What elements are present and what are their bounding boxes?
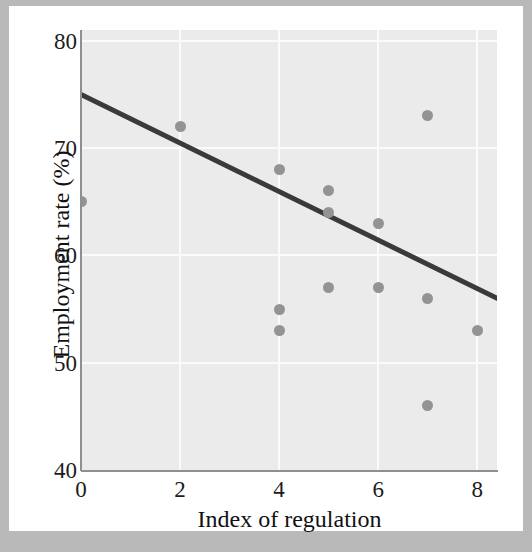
data-point xyxy=(472,325,483,336)
x-tick-label: 6 xyxy=(358,478,398,501)
trend-line-svg xyxy=(81,30,497,470)
plot-area xyxy=(81,30,497,470)
trend-line xyxy=(81,94,497,298)
page-background: 4050607080 02468 Index of regulation Emp… xyxy=(0,0,532,552)
y-axis-line xyxy=(80,30,82,471)
data-point xyxy=(373,282,384,293)
data-point xyxy=(323,207,334,218)
data-point xyxy=(274,325,285,336)
x-tick-label: 4 xyxy=(259,478,299,501)
x-axis-title: Index of regulation xyxy=(81,506,498,533)
data-point xyxy=(175,121,186,132)
x-axis-line xyxy=(81,470,498,472)
data-point xyxy=(422,293,433,304)
data-point xyxy=(274,164,285,175)
figure-paper: 4050607080 02468 Index of regulation Emp… xyxy=(9,6,523,531)
data-point xyxy=(373,218,384,229)
y-axis-title: Employment rate (%) xyxy=(48,35,75,475)
scatter-chart: 4050607080 02468 Index of regulation Emp… xyxy=(9,6,523,531)
x-tick-label: 2 xyxy=(160,478,200,501)
x-tick-label: 0 xyxy=(61,478,101,501)
data-point xyxy=(274,304,285,315)
x-tick-label: 8 xyxy=(457,478,497,501)
